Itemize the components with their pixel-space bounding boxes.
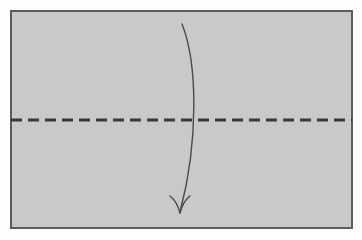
diagram-canvas bbox=[0, 0, 362, 240]
origami-fold-diagram: Origami fold step diagram Valley fold th… bbox=[0, 0, 362, 240]
